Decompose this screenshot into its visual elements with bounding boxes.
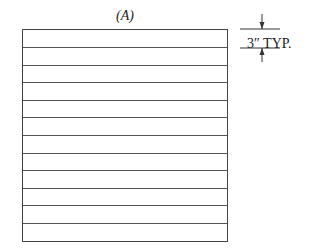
dimension-label: 3″ TYP. (247, 36, 291, 52)
